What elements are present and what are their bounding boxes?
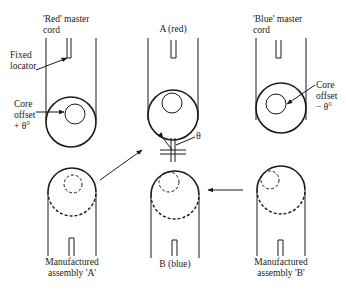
blue-master-cord-label: 'Blue' mastercord [253,14,302,36]
fixed-locator-label: Fixedlocator [10,50,36,72]
red-master-cord [36,38,96,147]
blue-master-cord [256,38,315,133]
core-offset-minus-label: Coreoffset− θ° [316,80,337,113]
theta-indicator [160,137,195,162]
manufactured-assembly-b [257,166,305,256]
core-offset-plus-label: Coreoffset+ θ° [14,99,35,132]
b-blue-label: B (blue) [145,259,205,270]
arrow-a-to-red [100,150,142,180]
manufactured-assembly-a [48,168,96,256]
manufactured-assembly-a-label: Manufacturedassembly 'A' [36,257,108,279]
diagram-canvas [0,0,346,291]
manufactured-assembly-b-label: Manufacturedassembly 'B' [245,257,317,279]
assembly-b-blue [151,171,199,258]
theta-label: θ [196,130,201,141]
a-red-label: A (red) [148,24,198,35]
red-master-cord-label: 'Red' mastercord [43,14,89,36]
assembly-a-red [148,38,198,140]
